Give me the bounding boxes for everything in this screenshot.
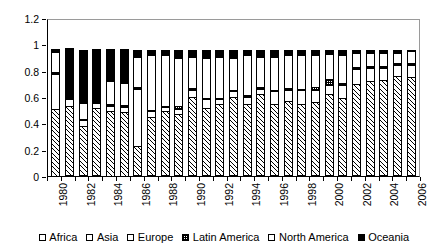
- stacked-bar[interactable]: [256, 50, 265, 176]
- bar-segment[interactable]: [407, 77, 416, 176]
- bar-segment[interactable]: [51, 109, 60, 177]
- bar-segment[interactable]: [133, 57, 142, 89]
- bar-segment[interactable]: [393, 50, 402, 54]
- bar-segment[interactable]: [284, 55, 293, 89]
- bar-segment[interactable]: [174, 50, 183, 59]
- bar-segment[interactable]: [379, 53, 388, 67]
- bar-segment[interactable]: [51, 52, 60, 73]
- bar-segment[interactable]: [256, 94, 265, 176]
- bar-segment[interactable]: [243, 97, 252, 105]
- legend-item[interactable]: North America: [268, 231, 348, 243]
- stacked-bar[interactable]: [366, 50, 375, 176]
- bar-segment[interactable]: [51, 74, 60, 110]
- bar-segment[interactable]: [133, 50, 142, 58]
- bar-segment[interactable]: [284, 50, 293, 57]
- bar-segment[interactable]: [65, 48, 74, 98]
- stacked-bar[interactable]: [407, 50, 416, 176]
- bar-segment[interactable]: [161, 55, 170, 106]
- bar-segment[interactable]: [229, 50, 238, 59]
- bar-segment[interactable]: [325, 54, 334, 80]
- bar-segment[interactable]: [79, 126, 88, 176]
- stacked-bar[interactable]: [174, 50, 183, 176]
- stacked-bar[interactable]: [297, 50, 306, 176]
- bar-segment[interactable]: [106, 111, 115, 177]
- bar-segment[interactable]: [407, 51, 416, 64]
- bar-segment[interactable]: [147, 55, 156, 110]
- bar-segment[interactable]: [202, 58, 211, 99]
- bar-segment[interactable]: [106, 49, 115, 82]
- stacked-bar[interactable]: [120, 49, 129, 176]
- bar-segment[interactable]: [311, 102, 320, 176]
- bar-segment[interactable]: [79, 50, 88, 104]
- stacked-bar[interactable]: [325, 50, 334, 176]
- bar-segment[interactable]: [147, 50, 156, 57]
- bar-segment[interactable]: [297, 104, 306, 176]
- bar-segment[interactable]: [393, 53, 402, 65]
- bar-segment[interactable]: [215, 57, 224, 99]
- bar-segment[interactable]: [51, 49, 60, 53]
- stacked-bar[interactable]: [229, 50, 238, 176]
- bar-segment[interactable]: [65, 99, 74, 107]
- bar-segment[interactable]: [284, 90, 293, 102]
- bar-segment[interactable]: [229, 58, 238, 91]
- bar-segment[interactable]: [297, 50, 306, 57]
- bar-segment[interactable]: [325, 50, 334, 55]
- bar-segment[interactable]: [311, 90, 320, 103]
- bar-segment[interactable]: [188, 97, 197, 176]
- stacked-bar[interactable]: [352, 50, 361, 176]
- bar-segment[interactable]: [120, 83, 129, 107]
- bar-segment[interactable]: [352, 53, 361, 69]
- bar-segment[interactable]: [366, 50, 375, 54]
- stacked-bar[interactable]: [92, 49, 101, 176]
- bar-segment[interactable]: [243, 104, 252, 176]
- stacked-bar[interactable]: [147, 50, 156, 176]
- stacked-bar[interactable]: [379, 50, 388, 176]
- bar-segment[interactable]: [202, 108, 211, 176]
- stacked-bar[interactable]: [161, 50, 170, 176]
- bar-segment[interactable]: [120, 112, 129, 177]
- legend-item[interactable]: Oceania: [358, 231, 409, 243]
- stacked-bar[interactable]: [215, 50, 224, 176]
- stacked-bar[interactable]: [79, 50, 88, 176]
- stacked-bar[interactable]: [338, 50, 347, 176]
- bar-segment[interactable]: [133, 89, 142, 147]
- bar-segment[interactable]: [393, 76, 402, 176]
- bar-segment[interactable]: [352, 69, 361, 85]
- bar-segment[interactable]: [133, 146, 142, 176]
- bar-segment[interactable]: [270, 57, 279, 91]
- bar-segment[interactable]: [229, 97, 238, 176]
- bar-segment[interactable]: [366, 53, 375, 67]
- bar-segment[interactable]: [325, 85, 334, 96]
- bar-segment[interactable]: [379, 68, 388, 81]
- bar-segment[interactable]: [284, 101, 293, 176]
- bar-segment[interactable]: [188, 50, 197, 58]
- bar-segment[interactable]: [188, 90, 197, 98]
- legend-item[interactable]: Europe: [127, 231, 173, 243]
- bar-segment[interactable]: [393, 65, 402, 77]
- bar-segment[interactable]: [297, 55, 306, 89]
- bar-segment[interactable]: [106, 81, 115, 105]
- bar-segment[interactable]: [338, 55, 347, 84]
- bar-segment[interactable]: [92, 49, 101, 102]
- bar-segment[interactable]: [366, 68, 375, 82]
- bar-segment[interactable]: [338, 98, 347, 176]
- legend-item[interactable]: Africa: [39, 231, 78, 243]
- legend-item[interactable]: Asia: [86, 231, 118, 243]
- bar-segment[interactable]: [338, 50, 347, 57]
- bar-segment[interactable]: [297, 90, 306, 104]
- bar-segment[interactable]: [270, 104, 279, 176]
- bar-segment[interactable]: [311, 50, 320, 57]
- bar-segment[interactable]: [65, 106, 74, 176]
- bar-segment[interactable]: [352, 84, 361, 176]
- bar-segment[interactable]: [243, 55, 252, 96]
- bar-segment[interactable]: [379, 80, 388, 176]
- bar-segment[interactable]: [120, 49, 129, 83]
- bar-segment[interactable]: [270, 91, 279, 104]
- stacked-bar[interactable]: [284, 50, 293, 176]
- stacked-bar[interactable]: [51, 49, 60, 176]
- bar-segment[interactable]: [202, 50, 211, 59]
- stacked-bar[interactable]: [202, 50, 211, 176]
- stacked-bar[interactable]: [188, 50, 197, 176]
- bar-segment[interactable]: [407, 65, 416, 78]
- bar-segment[interactable]: [188, 57, 197, 90]
